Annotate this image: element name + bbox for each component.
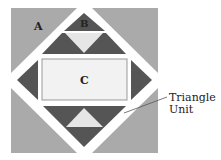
- side-triangle-left: [17, 60, 38, 100]
- side-triangle-right: [131, 60, 152, 100]
- label-a: A: [33, 20, 43, 33]
- callout-line-2: Unit: [169, 103, 194, 116]
- label-b: B: [80, 18, 88, 29]
- label-c: C: [80, 74, 89, 87]
- triangle-unit-top: [42, 33, 126, 54]
- quilt-block-diagram: A B C Triangle Unit: [0, 0, 221, 160]
